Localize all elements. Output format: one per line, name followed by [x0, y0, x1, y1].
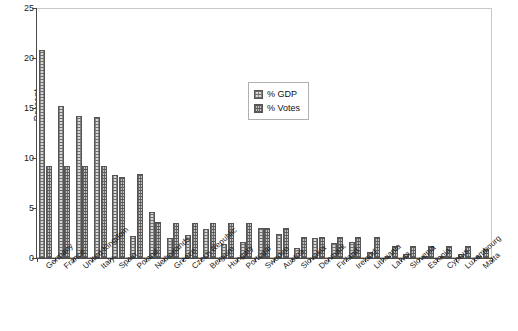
bar-gdp	[94, 117, 100, 258]
bar-group	[276, 8, 294, 258]
y-tick-label: 5	[0, 203, 34, 213]
bar-gdp	[39, 50, 45, 258]
bar-gdp	[76, 116, 82, 258]
y-tick-label: 20	[0, 53, 34, 63]
bar-group	[185, 8, 203, 258]
bar-votes	[46, 166, 52, 258]
bar-group	[94, 8, 112, 258]
legend-item-votes: % Votes	[254, 101, 300, 115]
bar-group	[149, 8, 167, 258]
bar-votes	[119, 177, 125, 258]
bar-group	[112, 8, 130, 258]
bar-group	[221, 8, 239, 258]
legend-item-gdp: % GDP	[254, 87, 300, 101]
y-tick-mark	[32, 108, 36, 109]
bar-group	[39, 8, 57, 258]
bar-group	[476, 8, 494, 258]
bar-group	[294, 8, 312, 258]
bar-group	[440, 8, 458, 258]
bars-container	[37, 8, 492, 258]
bar-group	[258, 8, 276, 258]
legend-label-gdp: % GDP	[267, 89, 297, 99]
bar-group	[130, 8, 148, 258]
bar-group	[349, 8, 367, 258]
bar-group	[240, 8, 258, 258]
bar-votes	[137, 174, 143, 258]
bar-group	[331, 8, 349, 258]
y-tick-label: 15	[0, 103, 34, 113]
bar-votes	[82, 166, 88, 258]
legend-label-votes: % Votes	[267, 103, 300, 113]
bar-group	[403, 8, 421, 258]
bar-group	[458, 8, 476, 258]
x-tick-mark	[37, 258, 38, 262]
y-tick-label: 10	[0, 153, 34, 163]
bar-group	[422, 8, 440, 258]
y-tick-mark	[32, 58, 36, 59]
bar-group	[76, 8, 94, 258]
y-tick-label: 0	[0, 253, 34, 263]
bar-group	[385, 8, 403, 258]
y-tick-mark	[32, 158, 36, 159]
legend-swatch-votes-icon	[254, 104, 263, 113]
y-tick-mark	[32, 208, 36, 209]
bar-gdp	[58, 106, 64, 258]
bar-group	[367, 8, 385, 258]
y-tick-mark	[32, 8, 36, 9]
y-tick-label: 25	[0, 3, 34, 13]
bar-chart: Percent 0510152025 GermanyFranceUnited K…	[0, 0, 518, 331]
bar-group	[167, 8, 185, 258]
bar-group	[58, 8, 76, 258]
y-tick-mark	[32, 258, 36, 259]
chart-legend: % GDP % Votes	[248, 82, 309, 120]
bar-group	[203, 8, 221, 258]
bar-group	[312, 8, 330, 258]
legend-swatch-gdp-icon	[254, 90, 263, 99]
